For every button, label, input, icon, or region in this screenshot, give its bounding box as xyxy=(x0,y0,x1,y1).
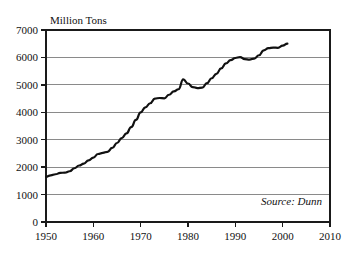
y-tick-label: 6000 xyxy=(16,51,39,63)
x-tick-label: 2010 xyxy=(319,230,342,242)
gridlines xyxy=(46,57,330,194)
y-tick-label: 2000 xyxy=(16,161,39,173)
y-axis-tick-labels: 01000200030004000500060007000 xyxy=(16,24,39,228)
x-tick-label: 1950 xyxy=(35,230,58,242)
y-tick-label: 4000 xyxy=(16,106,39,118)
y-tick-label: 5000 xyxy=(16,79,39,91)
y-tick-label: 7000 xyxy=(16,24,39,36)
x-tick-label: 2000 xyxy=(272,230,295,242)
y-tick-label: 3000 xyxy=(16,134,39,146)
chart-figure: 01000200030004000500060007000 1950196019… xyxy=(0,0,352,255)
data-series-line xyxy=(46,44,287,177)
y-tick-label: 1000 xyxy=(16,189,39,201)
y-tick-label: 0 xyxy=(33,216,39,228)
x-axis-tick-labels: 1950196019701980199020002010 xyxy=(35,230,342,242)
x-tick-label: 1990 xyxy=(224,230,247,242)
x-tick-label: 1970 xyxy=(130,230,153,242)
y-axis-title: Million Tons xyxy=(50,14,107,26)
line-chart: 01000200030004000500060007000 1950196019… xyxy=(0,0,352,255)
x-tick-label: 1960 xyxy=(82,230,105,242)
plot-frame xyxy=(46,30,330,222)
x-tick-label: 1980 xyxy=(177,230,200,242)
source-annotation: Source: Dunn xyxy=(261,195,322,207)
